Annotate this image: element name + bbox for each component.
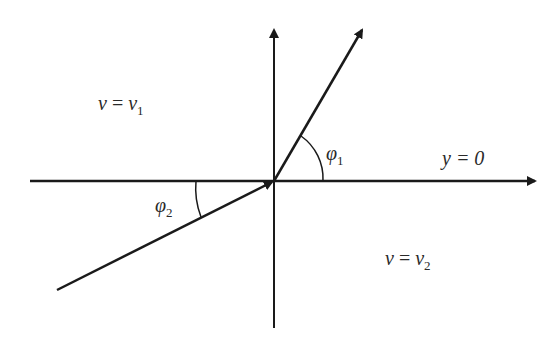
angle-arc-phi1: [301, 136, 323, 181]
region2-label: v = v2: [385, 248, 431, 272]
angle1-label: φ1: [326, 143, 344, 167]
axis-label: y = 0: [442, 148, 484, 168]
region1-rhs: v: [128, 92, 137, 114]
region1-lhs: v: [98, 92, 107, 114]
angle-arc-phi2: [196, 181, 201, 217]
axis-equation: y = 0: [442, 147, 484, 169]
region1-eq: =: [107, 92, 128, 114]
region2-eq: =: [394, 247, 415, 269]
angle1-sub: 1: [337, 153, 344, 168]
angle2-sub: 2: [166, 205, 173, 220]
region2-lhs: v: [385, 247, 394, 269]
angle2-label: φ2: [155, 195, 173, 219]
region2-rhs: v: [415, 247, 424, 269]
angle1-symbol: φ: [326, 142, 337, 164]
refracted-ray: [274, 30, 362, 181]
angle2-symbol: φ: [155, 194, 166, 216]
region1-sub: 1: [137, 103, 144, 118]
region2-sub: 2: [424, 258, 431, 273]
region1-label: v = v1: [98, 93, 144, 117]
